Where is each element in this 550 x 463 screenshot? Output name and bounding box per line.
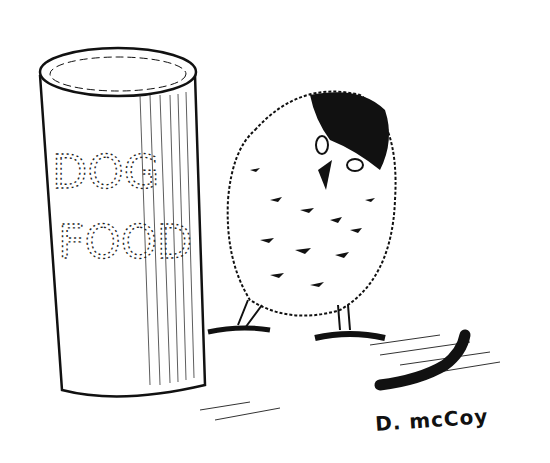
cartoon-illustration: DOG FOOD D. mcCoy — [0, 0, 550, 463]
dog-food-can: DOG FOOD — [40, 48, 205, 396]
can-label-dog: DOG — [52, 145, 159, 199]
worm — [380, 335, 465, 385]
can-label-food: FOOD — [58, 215, 192, 269]
drawing: DOG FOOD — [0, 0, 550, 463]
chick — [208, 92, 396, 338]
